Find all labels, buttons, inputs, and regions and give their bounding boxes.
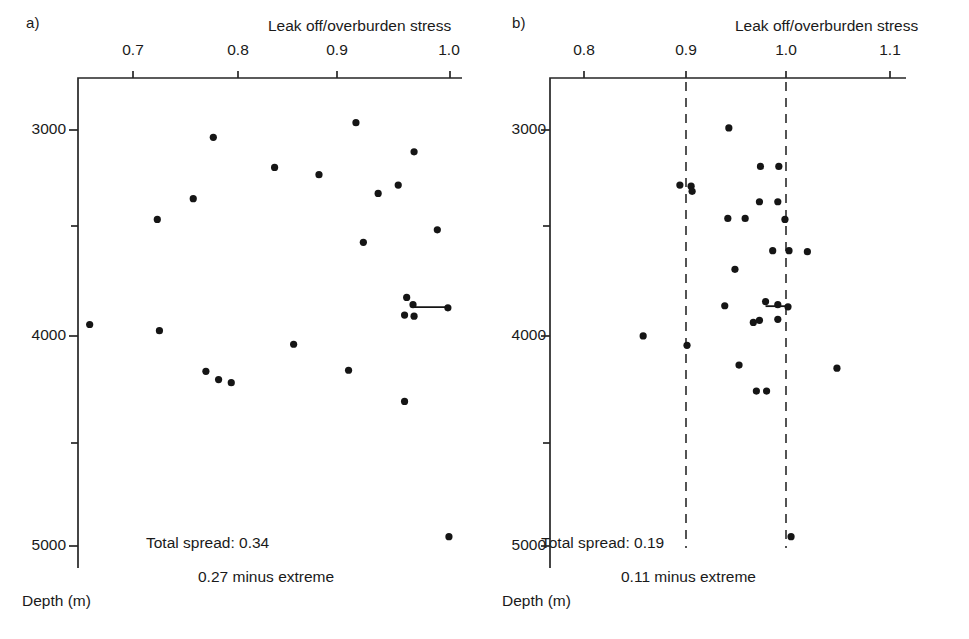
data-point bbox=[210, 134, 217, 141]
figure-canvas: a) Leak off/overburden stress 0.7 0.8 0.… bbox=[0, 0, 969, 639]
data-point bbox=[434, 226, 441, 233]
data-point bbox=[757, 163, 764, 170]
data-point bbox=[228, 379, 235, 386]
data-point bbox=[750, 319, 757, 326]
data-point bbox=[360, 239, 367, 246]
data-point bbox=[804, 248, 811, 255]
data-point bbox=[444, 304, 451, 311]
data-point bbox=[756, 317, 763, 324]
data-point bbox=[784, 303, 791, 310]
data-point bbox=[154, 216, 161, 223]
data-point bbox=[86, 321, 93, 328]
data-point bbox=[190, 195, 197, 202]
data-point bbox=[833, 365, 840, 372]
data-point bbox=[395, 182, 402, 189]
data-point bbox=[721, 302, 728, 309]
data-point bbox=[775, 163, 782, 170]
data-point bbox=[345, 367, 352, 374]
panel-a: a) Leak off/overburden stress 0.7 0.8 0.… bbox=[0, 0, 490, 639]
data-point bbox=[683, 342, 690, 349]
data-point bbox=[731, 266, 738, 273]
data-point bbox=[725, 124, 732, 131]
data-point bbox=[689, 188, 696, 195]
b-axis-lines bbox=[550, 78, 906, 568]
data-point bbox=[774, 198, 781, 205]
data-point bbox=[410, 148, 417, 155]
data-point bbox=[742, 215, 749, 222]
data-point bbox=[156, 327, 163, 334]
data-point bbox=[202, 368, 209, 375]
data-point bbox=[762, 298, 769, 305]
a-axis-lines bbox=[78, 78, 462, 568]
data-point bbox=[403, 294, 410, 301]
data-point bbox=[724, 215, 731, 222]
data-point bbox=[785, 247, 792, 254]
data-point bbox=[769, 247, 776, 254]
data-point bbox=[787, 533, 794, 540]
data-point bbox=[774, 301, 781, 308]
data-point bbox=[410, 313, 417, 320]
data-point bbox=[271, 164, 278, 171]
panel-b-plot-area bbox=[490, 0, 969, 639]
data-point bbox=[352, 119, 359, 126]
data-point bbox=[735, 361, 742, 368]
data-point bbox=[753, 387, 760, 394]
data-point bbox=[676, 182, 683, 189]
data-point bbox=[763, 387, 770, 394]
data-point bbox=[401, 312, 408, 319]
data-point bbox=[756, 198, 763, 205]
data-point bbox=[375, 190, 382, 197]
data-point bbox=[640, 332, 647, 339]
data-point bbox=[315, 171, 322, 178]
data-point bbox=[409, 301, 416, 308]
data-point bbox=[445, 533, 452, 540]
data-point bbox=[401, 398, 408, 405]
data-point bbox=[781, 216, 788, 223]
data-point bbox=[774, 316, 781, 323]
data-point bbox=[290, 341, 297, 348]
panel-b: b) Leak off/overburden stress 0.8 0.9 1.… bbox=[490, 0, 969, 639]
panel-a-plot-area bbox=[0, 0, 490, 639]
data-point bbox=[215, 376, 222, 383]
